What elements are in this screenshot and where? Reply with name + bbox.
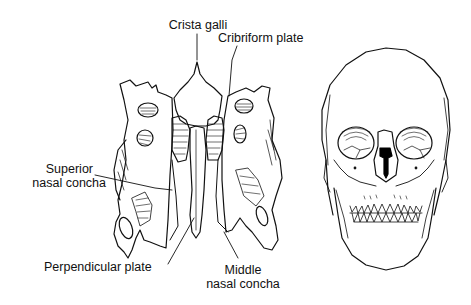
label-superior-nasal-concha-line1: Superior [10,162,93,176]
ethmoid-bone-illustration [114,62,282,258]
skull-illustration [322,48,450,270]
right-labyrinth [222,86,282,250]
right-lower-opening [254,205,270,227]
mandible [334,188,436,270]
leader-lines [95,34,238,264]
upper-teeth [350,204,422,213]
leader-perpendicular-plate [168,218,194,264]
right-air-cell-1 [235,99,253,113]
leader-middle-nasal-concha [224,232,238,258]
leader-cribriform-plate [229,46,237,96]
nasal-cavity-dark [380,148,392,178]
leader-superior-nasal-concha [95,175,172,190]
lower-teeth [352,213,420,222]
left-air-cell-2 [137,130,153,146]
left-superior-concha [172,116,190,162]
cranium [322,48,450,215]
label-perpendicular-plate: Perpendicular plate [44,260,152,274]
label-cribriform-plate: Cribriform plate [218,31,303,45]
label-crista-galli: Crista galli [166,18,230,32]
label-middle-nasal-concha-line1: Middle [200,263,286,277]
label-superior-nasal-concha-line2: nasal concha [10,176,106,190]
left-air-cell-1 [138,103,158,117]
label-middle-nasal-concha-line2: nasal concha [200,277,286,291]
left-lower-opening [117,216,136,241]
